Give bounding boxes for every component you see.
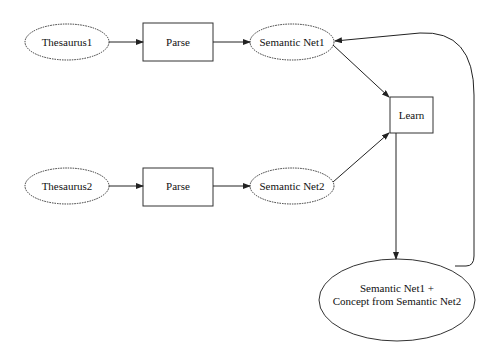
- node-label: Thesaurus1: [42, 36, 93, 48]
- edge-result-semnet1: [335, 33, 474, 266]
- node-label: Learn: [399, 109, 425, 121]
- node-learn: Learn: [390, 97, 433, 133]
- diagram-canvas: Thesaurus1 Parse Semantic Net1 Learn The…: [0, 0, 499, 355]
- node-label-line2: Concept from Semantic Net2: [333, 295, 462, 307]
- edge-semnet2-learn: [333, 133, 389, 182]
- node-label: Thesaurus2: [42, 180, 93, 192]
- node-parse2: Parse: [143, 168, 213, 206]
- node-thesaurus2: Thesaurus2: [25, 168, 109, 204]
- node-label: Parse: [166, 36, 190, 48]
- node-label: Semantic Net2: [259, 180, 324, 192]
- edge-semnet1-learn: [333, 45, 389, 97]
- node-label: Parse: [166, 180, 190, 192]
- node-thesaurus1: Thesaurus1: [25, 24, 109, 60]
- node-semantic-net2: Semantic Net2: [250, 168, 334, 204]
- node-result: Semantic Net1 + Concept from Semantic Ne…: [319, 259, 475, 341]
- node-parse1: Parse: [143, 23, 213, 61]
- node-label-line1: Semantic Net1 +: [360, 282, 434, 294]
- node-semantic-net1: Semantic Net1: [250, 24, 334, 60]
- node-label: Semantic Net1: [259, 36, 324, 48]
